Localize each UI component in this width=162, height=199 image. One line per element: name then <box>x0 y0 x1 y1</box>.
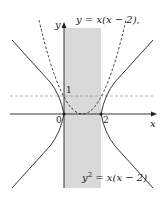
diagram-canvas <box>0 0 162 199</box>
hyperbola-label: y2 = x(x − 2) <box>82 172 147 183</box>
parabola-label: y = x(x − 2), <box>76 15 140 25</box>
hyperbola-label-rhs: = x(x − 2) <box>92 172 147 183</box>
x-axis-label: x <box>150 119 156 129</box>
shaded-region <box>64 28 101 188</box>
two-label: 2 <box>103 116 109 125</box>
y-axis-arrow-icon <box>62 22 67 28</box>
y-axis-label: y <box>55 20 61 30</box>
one-label: 1 <box>66 86 72 95</box>
x-axis-arrow-icon <box>151 112 157 117</box>
origin-label: 0 <box>56 116 62 125</box>
point-origin <box>62 112 65 115</box>
